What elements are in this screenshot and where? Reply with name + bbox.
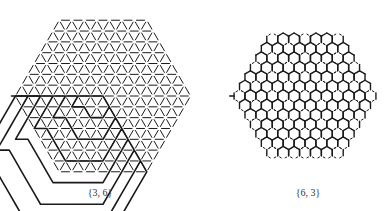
label-6-3: {6, 3} xyxy=(278,187,338,198)
triangular-tiling xyxy=(0,20,189,211)
hexagonal-tiling xyxy=(230,33,376,158)
tessellation-diagram xyxy=(0,0,390,211)
label-3-6: {3, 6} xyxy=(70,187,130,198)
